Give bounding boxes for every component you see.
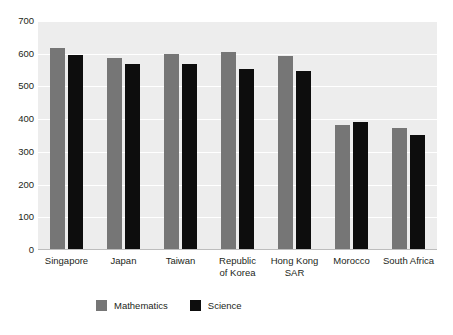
x-axis-category-label: Hong Kong SAR: [266, 252, 323, 286]
bar-group: [266, 21, 323, 250]
plot-area: [38, 21, 437, 250]
bar-science: [410, 135, 425, 250]
y-axis-tick-label: 100: [18, 213, 34, 223]
x-axis: SingaporeJapanTaiwanRepublic of KoreaHon…: [38, 252, 437, 286]
bar-science: [68, 55, 83, 250]
x-axis-category-label: Morocco: [323, 252, 380, 286]
bar-group: [95, 21, 152, 250]
bar-science: [125, 64, 140, 250]
x-axis-line: [38, 249, 437, 250]
bar-chart: 0100200300400500600700 SingaporeJapanTai…: [0, 0, 453, 335]
bar-mathematics: [164, 54, 179, 250]
y-axis-tick-label: 500: [18, 82, 34, 92]
legend-swatch-icon: [190, 300, 201, 311]
bar-mathematics: [392, 128, 407, 250]
bar-mathematics: [335, 125, 350, 250]
legend-item[interactable]: Mathematics: [96, 300, 168, 311]
x-axis-category-label: South Africa: [380, 252, 437, 286]
y-axis-tick-label: 200: [18, 180, 34, 190]
bar-science: [182, 64, 197, 250]
bar-science: [296, 71, 311, 250]
y-axis-tick-label: 600: [18, 49, 34, 59]
bar-group: [323, 21, 380, 250]
bar-mathematics: [278, 56, 293, 250]
bar-group: [38, 21, 95, 250]
bar-group: [209, 21, 266, 250]
legend-item[interactable]: Science: [190, 300, 242, 311]
y-axis-tick-label: 700: [18, 16, 34, 26]
y-axis-tick-label: 300: [18, 147, 34, 157]
legend-swatch-icon: [96, 300, 107, 311]
y-axis-tick-label: 0: [29, 245, 34, 255]
y-axis: 0100200300400500600700: [0, 21, 34, 250]
bar-mathematics: [50, 48, 65, 250]
bar-science: [353, 122, 368, 250]
x-axis-category-label: Republic of Korea: [209, 252, 266, 286]
bar-mathematics: [221, 52, 236, 250]
bar-groups: [38, 21, 437, 250]
bar-science: [239, 69, 254, 250]
chart-legend: MathematicsScience: [38, 300, 437, 311]
y-axis-tick-label: 400: [18, 114, 34, 124]
bar-group: [380, 21, 437, 250]
bar-mathematics: [107, 58, 122, 250]
bar-group: [152, 21, 209, 250]
x-axis-category-label: Japan: [95, 252, 152, 286]
legend-item-label: Science: [208, 301, 242, 311]
x-axis-category-label: Singapore: [38, 252, 95, 286]
x-axis-category-label: Taiwan: [152, 252, 209, 286]
legend-item-label: Mathematics: [114, 301, 168, 311]
